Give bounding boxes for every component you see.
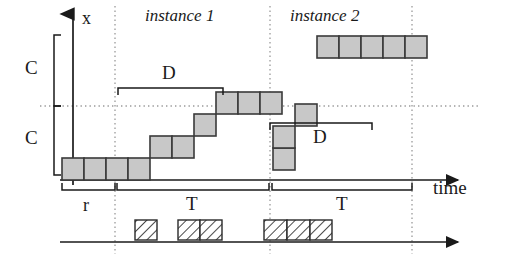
- bracket-t-first: [117, 183, 269, 190]
- progress-block: [238, 92, 260, 114]
- progress-block: [172, 136, 194, 158]
- progress-block: [405, 36, 427, 58]
- timing-diagram-svg: [0, 0, 506, 259]
- progress-block: [62, 158, 84, 180]
- instance-1-title: instance 1: [145, 7, 214, 24]
- execution-blocks: [135, 220, 332, 240]
- bracket-t-second: [272, 183, 412, 190]
- bracket-label-c-upper: C: [25, 58, 38, 77]
- progress-block: [273, 148, 295, 170]
- bracket-c-upper: [54, 35, 61, 106]
- progress-block: [128, 158, 150, 180]
- bracket-c-lower: [54, 106, 61, 175]
- figure-canvas: x time instance 1 instance 2 C C D D r T…: [0, 0, 506, 259]
- progress-block: [216, 92, 238, 114]
- progress-block: [194, 114, 216, 136]
- bracket-label-d-first: D: [162, 63, 176, 82]
- bracket-label-d-second: D: [313, 127, 327, 146]
- progress-block: [150, 136, 172, 158]
- execution-block: [135, 220, 157, 240]
- execution-block: [178, 220, 200, 240]
- instance-2-title: instance 2: [290, 7, 359, 24]
- progress-blocks: [62, 36, 427, 180]
- bracket-label-c-lower: C: [25, 128, 38, 147]
- bracket-label-r: r: [83, 196, 89, 214]
- progress-block: [383, 36, 405, 58]
- progress-block: [273, 126, 295, 148]
- progress-block: [84, 158, 106, 180]
- bracket-label-t-first: T: [186, 194, 198, 213]
- y-axis-label: x: [82, 9, 91, 27]
- progress-block: [339, 36, 361, 58]
- execution-block: [310, 220, 332, 240]
- bracket-d-first: [118, 88, 223, 95]
- execution-block: [200, 220, 222, 240]
- progress-block: [361, 36, 383, 58]
- progress-block: [317, 36, 339, 58]
- execution-block: [264, 220, 287, 240]
- bracket-label-t-second: T: [336, 194, 348, 213]
- bracket-r: [62, 183, 115, 190]
- x-axis-label: time: [433, 178, 467, 197]
- progress-block: [106, 158, 128, 180]
- execution-block: [287, 220, 310, 240]
- progress-block: [260, 92, 282, 114]
